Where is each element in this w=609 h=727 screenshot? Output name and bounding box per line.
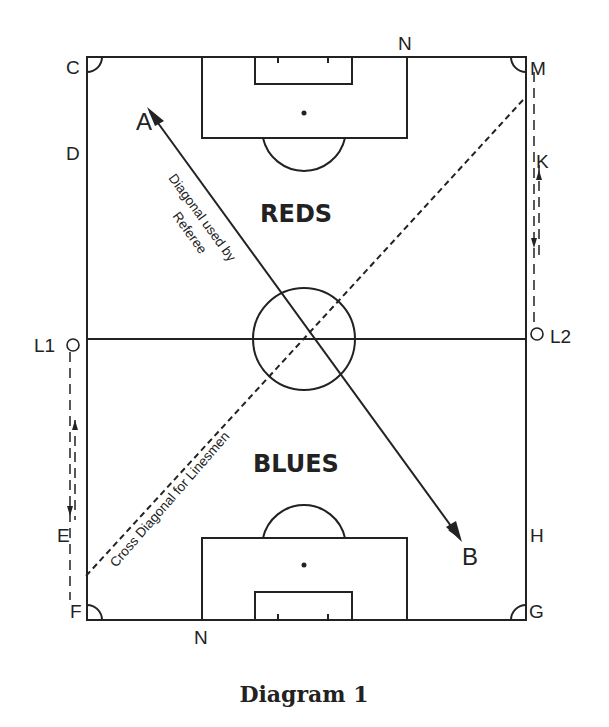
linesmen-diagonal-label: Cross Diagonal for Linesmen [107, 429, 233, 570]
team-reds-label: REDS [260, 200, 332, 228]
label-l2: L2 [550, 326, 571, 347]
team-blues-label: BLUES [253, 450, 339, 478]
label-a: A [136, 108, 152, 135]
top-goal-area [255, 57, 352, 84]
linesman-l1-marker [67, 339, 79, 351]
label-c: C [66, 57, 80, 78]
label-l1: L1 [34, 335, 55, 356]
corner-arc-c [87, 57, 102, 72]
label-n-top: N [398, 33, 412, 54]
pitch-diagram: C D A N M K L1 L2 E H B F G N REDS BLUES… [0, 0, 609, 727]
top-penalty-area [202, 57, 407, 138]
corner-arc-g [511, 605, 526, 620]
top-penalty-spot [302, 111, 307, 116]
label-k: K [536, 151, 549, 172]
linesman-l2-marker [531, 328, 543, 340]
diagram-caption: Diagram 1 [239, 681, 368, 707]
label-f: F [70, 601, 82, 622]
label-m: M [530, 58, 546, 79]
top-penalty-arc [263, 138, 345, 171]
label-h: H [530, 525, 544, 546]
label-e: E [57, 525, 70, 546]
arrowhead-b-icon [446, 521, 462, 542]
l1-up-arrow-icon [72, 420, 78, 430]
corner-arc-m [511, 57, 526, 72]
l1-down-arrow-icon [67, 506, 73, 516]
bottom-penalty-spot [302, 563, 307, 568]
corner-arc-f [87, 605, 102, 620]
label-d: D [66, 143, 80, 164]
label-n-bottom: N [194, 627, 208, 648]
bottom-goal-area [255, 592, 352, 620]
bottom-penalty-area [202, 538, 407, 620]
label-b: B [462, 543, 478, 570]
l2-down-arrow-icon [531, 238, 537, 248]
label-g: G [529, 601, 544, 622]
bottom-penalty-arc [263, 505, 345, 538]
